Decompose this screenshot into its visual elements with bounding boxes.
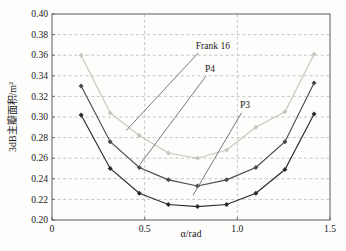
annotation-leader-line	[126, 53, 198, 130]
x-tick-label: 1.0	[231, 223, 243, 234]
x-tick-label: 0.5	[139, 223, 151, 234]
series-line-p4	[81, 83, 314, 186]
annotation-label: P3	[240, 99, 250, 110]
series-line-frank-16	[81, 54, 314, 158]
line-chart: 0.200.220.240.260.280.300.320.340.360.38…	[0, 0, 346, 251]
data-point-marker	[224, 177, 229, 182]
data-point-marker	[79, 53, 84, 58]
y-axis-label: 3dB主瓣面积/m²	[4, 82, 19, 152]
y-tick-label: 0.20	[31, 214, 48, 225]
annotation-p4: P4	[140, 63, 215, 164]
y-tick-label: 0.34	[31, 70, 48, 81]
x-tick-label: 0	[50, 223, 55, 234]
y-tick-label: 0.38	[31, 29, 48, 40]
series-frank-16	[79, 52, 317, 161]
data-point-marker	[224, 202, 229, 207]
data-point-marker	[312, 81, 317, 86]
data-point-marker	[312, 52, 317, 57]
data-point-marker	[166, 177, 171, 182]
y-tick-label: 0.22	[31, 194, 48, 205]
grid-lines	[52, 14, 330, 220]
data-point-marker	[282, 109, 287, 114]
x-axis-label: α/rad	[181, 228, 202, 239]
annotation-label: P4	[205, 63, 215, 74]
y-tick-label: 0.36	[31, 49, 48, 60]
data-point-marker	[312, 111, 317, 116]
data-point-marker	[79, 84, 84, 89]
chart-figure: 0.200.220.240.260.280.300.320.340.360.38…	[0, 0, 346, 251]
y-tick-label: 0.24	[31, 173, 48, 184]
y-tick-label: 0.32	[31, 91, 48, 102]
data-point-marker	[166, 151, 171, 156]
data-point-marker	[195, 156, 200, 161]
y-tick-label: 0.30	[31, 111, 48, 122]
annotation-label: Frank 16	[196, 40, 231, 51]
data-point-marker	[166, 202, 171, 207]
x-tick-label: 1.5	[324, 223, 336, 234]
y-tick-label: 0.28	[31, 132, 48, 143]
y-tick-label: 0.26	[31, 152, 48, 163]
annotation-leader-line	[193, 113, 241, 195]
annotation-leader-line	[140, 76, 206, 164]
y-tick-label: 0.40	[31, 8, 48, 19]
data-point-marker	[195, 204, 200, 209]
